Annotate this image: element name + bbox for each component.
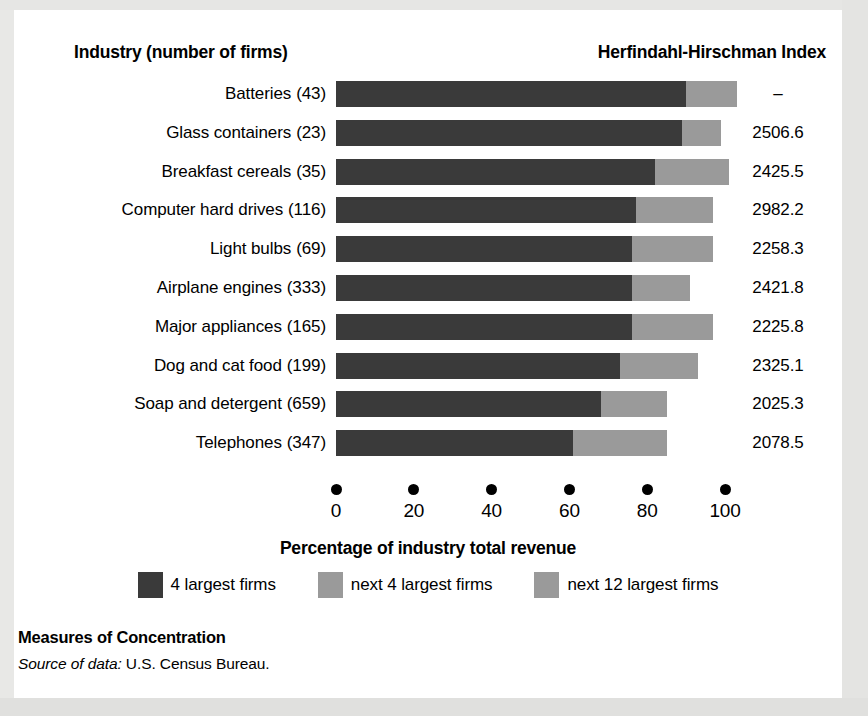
bar-segment-next-4 (655, 159, 729, 185)
axis-tick-dot (564, 484, 575, 495)
industry-name: Airplane engines (157, 278, 282, 297)
hhi-value: 2421.8 (730, 278, 826, 298)
row-label: Light bulbs(69) (14, 239, 326, 259)
source-label: Source of data: (18, 655, 122, 672)
axis-tick-label: 20 (384, 500, 444, 522)
bar-segment-4-largest (336, 81, 686, 107)
axis-tick-label: 0 (306, 500, 366, 522)
industry-name: Computer hard drives (122, 200, 283, 219)
firm-count: (116) (288, 200, 326, 219)
page-edge-right (842, 0, 868, 716)
bar-segment-4-largest (336, 430, 573, 456)
chart-figure: Industry (number of firms) Herfindahl-Hi… (14, 10, 842, 698)
bar-segment-next-4 (632, 236, 714, 262)
row-label: Batteries(43) (14, 84, 326, 104)
bar-row: Batteries(43)– (14, 78, 842, 117)
page-edge-bottom (0, 698, 868, 716)
row-label: Soap and detergent(659) (14, 394, 326, 414)
column-header-industry: Industry (number of firms) (74, 42, 288, 63)
firm-count: (347) (287, 433, 326, 452)
legend-label: next 12 largest firms (567, 575, 718, 595)
axis-tick-label: 40 (462, 500, 522, 522)
industry-name: Major appliances (155, 317, 282, 336)
bar-row: Breakfast cereals(35)2425.5 (14, 156, 842, 195)
legend-label: next 4 largest firms (351, 575, 493, 595)
hhi-value: 2078.5 (730, 433, 826, 453)
axis-tick-label: 80 (617, 500, 677, 522)
stacked-bar (336, 236, 713, 262)
bar-segment-4-largest (336, 314, 632, 340)
column-header-hhi: Herfindahl-Hirschman Index (526, 42, 826, 63)
stacked-bar (336, 120, 721, 146)
axis-tick-dot (408, 484, 419, 495)
industry-name: Breakfast cereals (162, 162, 292, 181)
firm-count: (199) (287, 356, 326, 375)
bar-segment-next-4 (636, 197, 714, 223)
axis-tick-dot (331, 484, 342, 495)
hhi-value: 2982.2 (730, 200, 826, 220)
stacked-bar (336, 159, 729, 185)
chart-legend: 4 largest firmsnext 4 largest firmsnext … (14, 572, 842, 598)
bar-row: Computer hard drives(116)2982.2 (14, 194, 842, 233)
x-axis: 020406080100 (14, 472, 842, 542)
bar-segment-4-largest (336, 353, 620, 379)
industry-name: Dog and cat food (154, 356, 282, 375)
hhi-value: 2025.3 (730, 394, 826, 414)
bar-segment-next-4 (601, 391, 667, 417)
page-edge-top (0, 0, 868, 10)
hhi-value: – (730, 84, 826, 104)
bar-segment-next-4 (573, 430, 666, 456)
bar-row: Major appliances(165)2225.8 (14, 311, 842, 350)
source-text: U.S. Census Bureau. (126, 655, 270, 672)
row-label: Breakfast cereals(35) (14, 162, 326, 182)
scanned-page: Industry (number of firms) Herfindahl-Hi… (0, 0, 868, 716)
stacked-bar (336, 81, 737, 107)
axis-tick-dot (642, 484, 653, 495)
hhi-value: 2225.8 (730, 317, 826, 337)
figure-title: Measures of Concentration (18, 628, 226, 647)
firm-count: (659) (287, 394, 326, 413)
row-label: Major appliances(165) (14, 317, 326, 337)
bar-segment-next-4 (632, 275, 690, 301)
stacked-bar (336, 275, 690, 301)
bar-segment-next-4 (682, 120, 721, 146)
stacked-bar (336, 391, 667, 417)
bar-row: Airplane engines(333)2421.8 (14, 272, 842, 311)
axis-tick-dot (486, 484, 497, 495)
row-label: Glass containers(23) (14, 123, 326, 143)
axis-tick-dot (720, 484, 731, 495)
firm-count: (69) (296, 239, 326, 258)
page-edge-left (0, 0, 14, 716)
bar-segment-next-4 (632, 314, 714, 340)
bar-segment-4-largest (336, 197, 636, 223)
legend-item: 4 largest firms (138, 572, 276, 598)
x-axis-title: Percentage of industry total revenue (14, 538, 842, 559)
industry-name: Batteries (225, 84, 291, 103)
hhi-value: 2425.5 (730, 162, 826, 182)
firm-count: (165) (287, 317, 326, 336)
figure-source: Source of data: U.S. Census Bureau. (18, 655, 270, 673)
hhi-value: 2325.1 (730, 356, 826, 376)
firm-count: (23) (296, 123, 326, 142)
stacked-bar (336, 430, 667, 456)
bar-segment-4-largest (336, 236, 632, 262)
stacked-bar (336, 197, 713, 223)
legend-item: next 12 largest firms (534, 572, 718, 598)
row-label: Telephones(347) (14, 433, 326, 453)
bar-rows: Batteries(43)–Glass containers(23)2506.6… (14, 78, 842, 466)
industry-name: Soap and detergent (134, 394, 282, 413)
bar-segment-4-largest (336, 391, 601, 417)
row-label: Computer hard drives(116) (14, 200, 326, 220)
axis-tick-label: 60 (539, 500, 599, 522)
bar-row: Soap and detergent(659)2025.3 (14, 388, 842, 427)
row-label: Airplane engines(333) (14, 278, 326, 298)
stacked-bar (336, 314, 713, 340)
bar-row: Dog and cat food(199)2325.1 (14, 350, 842, 389)
hhi-value: 2258.3 (730, 239, 826, 259)
industry-name: Telephones (196, 433, 282, 452)
bar-row: Glass containers(23)2506.6 (14, 117, 842, 156)
stacked-bar (336, 353, 698, 379)
row-label: Dog and cat food(199) (14, 356, 326, 376)
bar-segment-4-largest (336, 120, 682, 146)
bar-row: Telephones(347)2078.5 (14, 427, 842, 466)
